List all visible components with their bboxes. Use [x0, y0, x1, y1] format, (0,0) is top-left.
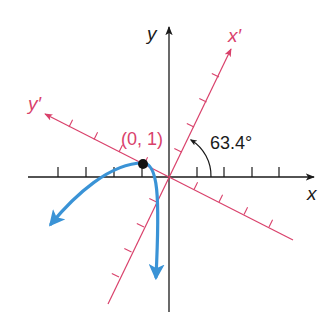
- rotation-angle-arc: [191, 140, 211, 177]
- x-prime-axis-label: x′: [227, 25, 243, 46]
- point-label: (0, 1): [121, 129, 163, 149]
- x-axis-label: x: [306, 183, 318, 204]
- parabola-curve: [51, 163, 158, 277]
- y-axis-label: y: [145, 23, 158, 44]
- rotated-axes-diagram: y x x′ y′ (0, 1) 63.4°: [0, 0, 336, 333]
- vertex-point: [138, 159, 148, 169]
- y-prime-axis-label: y′: [26, 93, 43, 114]
- x-axis: [28, 167, 314, 177]
- angle-label: 63.4°: [210, 133, 252, 153]
